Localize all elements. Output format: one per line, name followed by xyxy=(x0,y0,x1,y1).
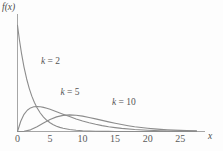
curve-label-k-10: k = 10 xyxy=(112,97,136,107)
x-tick-label-5: 5 xyxy=(48,133,53,144)
k-value: = 5 xyxy=(65,87,80,97)
curve-label-k-5: k = 5 xyxy=(61,87,80,97)
x-tick-label-10: 10 xyxy=(78,133,88,144)
curve-k-5 xyxy=(18,107,197,132)
k-value: = 10 xyxy=(116,97,136,107)
plot-canvas xyxy=(0,0,223,151)
y-axis-label: f(x) xyxy=(2,2,15,12)
x-tick-label-20: 20 xyxy=(143,133,153,144)
curve-k-2 xyxy=(18,25,197,131)
x-axis-label: x xyxy=(208,131,212,141)
x-tick-label-0: 0 xyxy=(15,133,20,144)
x-tick-label-15: 15 xyxy=(110,133,120,144)
chi-square-distribution-figure: f(x) x 0510152025 k = 2k = 5k = 10 xyxy=(0,0,223,151)
x-tick-label-25: 25 xyxy=(175,133,185,144)
k-value: = 2 xyxy=(45,56,60,66)
curve-label-k-2: k = 2 xyxy=(41,56,60,66)
curves-group xyxy=(18,25,197,131)
axes-group xyxy=(18,14,206,132)
